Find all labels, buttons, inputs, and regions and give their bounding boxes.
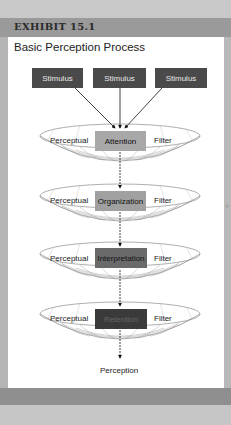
bottom-band [0,388,231,405]
stimulus-box: Stimulus [32,68,83,88]
stimulus-box: Stimulus [155,68,207,88]
filter-left-label: Perceptual [50,314,88,323]
filter-left-label: Perceptual [50,254,88,263]
diagram-graphics [0,0,231,425]
stage-retention: Retention [95,309,147,329]
stage-attention: Attention [95,131,146,151]
stage-organization: Organization [95,191,146,211]
filter-left-label: Perceptual [50,196,88,205]
filter-right-label: Filter [154,254,172,263]
filter-right-label: Filter [154,196,172,205]
stage-interpretation: Interpretation [95,248,147,268]
filter-left-label: Perceptual [50,136,88,145]
perception-output-label: Perception [100,366,138,375]
stimulus-box: Stimulus [93,68,146,88]
bottom-background [0,405,231,425]
filter-right-label: Filter [154,136,172,145]
filter-right-label: Filter [154,314,172,323]
